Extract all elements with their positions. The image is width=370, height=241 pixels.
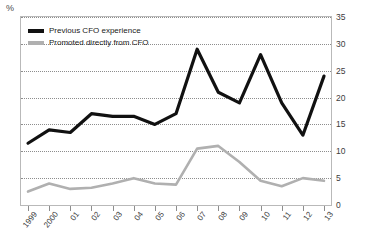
chart-legend: Previous CFO experience Promoted directl… [28, 26, 149, 47]
y-tick-label-30: 30 [336, 39, 345, 49]
y-tick-label-0: 0 [336, 200, 341, 210]
x-tick-label-07: 07 [196, 210, 209, 223]
x-tick-label-01: 01 [69, 210, 82, 223]
x-tick-label-04: 04 [132, 210, 145, 223]
series-line-promoted-directly-from-cfo [28, 146, 324, 192]
x-axis-labels: 1999200001020304050607080910111213 [0, 210, 370, 241]
y-axis-unit-label: % [6, 3, 14, 13]
legend-swatch-black [28, 29, 44, 33]
cfo-experience-line-chart: % Previous CFO experience Promoted direc… [0, 0, 370, 241]
legend-item-previous-cfo-experience: Previous CFO experience [28, 26, 149, 35]
y-axis-labels: 05101520253035 [336, 16, 366, 206]
legend-item-promoted-directly-from-cfo: Promoted directly from CFO [28, 38, 149, 47]
x-tick-label-12: 12 [301, 210, 314, 223]
y-tick-label-20: 20 [336, 93, 345, 103]
legend-label-promoted-directly-from-cfo: Promoted directly from CFO [49, 38, 149, 47]
y-tick-label-35: 35 [336, 12, 345, 22]
y-tick-label-5: 5 [336, 173, 341, 183]
x-tick-label-11: 11 [281, 210, 293, 222]
legend-swatch-gray [28, 41, 44, 45]
x-tick-label-2000: 2000 [42, 210, 60, 230]
x-tick-label-08: 08 [217, 210, 230, 223]
x-tick-label-03: 03 [111, 210, 124, 223]
x-tick-label-05: 05 [153, 210, 166, 223]
y-tick-label-15: 15 [336, 119, 345, 129]
y-tick-label-10: 10 [336, 146, 345, 156]
x-tick-label-02: 02 [90, 210, 103, 223]
legend-label-previous-cfo-experience: Previous CFO experience [49, 26, 141, 35]
x-tick-label-09: 09 [238, 210, 251, 223]
y-tick-label-25: 25 [336, 66, 345, 76]
x-tick-label-06: 06 [175, 210, 188, 223]
x-tick-label-10: 10 [259, 210, 272, 223]
x-tick-label-13: 13 [323, 210, 336, 223]
series-line-previous-cfo-experience [28, 49, 324, 143]
x-tick-label-1999: 1999 [21, 210, 39, 230]
